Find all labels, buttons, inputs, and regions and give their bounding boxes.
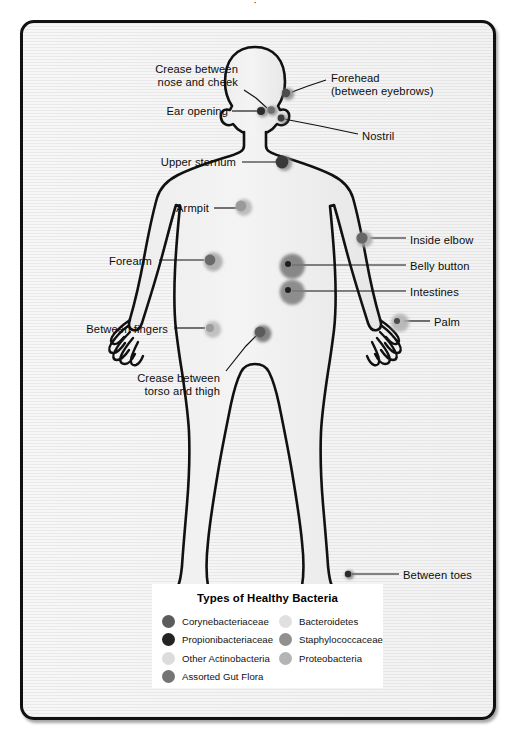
- legend-item[interactable]: Bacteroidetes: [279, 612, 383, 631]
- label-between-toes: Between toes: [403, 569, 510, 582]
- legend-item-label: Proteobacteria: [299, 653, 362, 664]
- marker-crease-torso-thigh[interactable]: [254, 325, 271, 342]
- marker-core: [282, 89, 290, 97]
- legend-item[interactable]: Propionibacteriaceae: [162, 631, 279, 650]
- label-ear-opening: Ear opening: [130, 105, 228, 118]
- marker-between-fingers[interactable]: [204, 321, 221, 338]
- legend-item-label: Bacteroidetes: [299, 616, 358, 627]
- marker-core: [267, 106, 275, 114]
- marker-halo: [280, 254, 305, 279]
- cropped-caption-fragment: ·: [0, 0, 510, 4]
- legend-swatch-icon: [279, 633, 292, 646]
- label-crease-torso-thigh: Crease between torso and thigh: [108, 372, 220, 397]
- label-armpit: Armpit: [151, 202, 209, 215]
- legend-swatch-icon: [162, 670, 175, 683]
- diagram-canvas: ·: [0, 0, 510, 732]
- marker-core: [394, 318, 400, 324]
- legend-panel: Types of Healthy Bacteria Corynebacteria…: [152, 584, 383, 688]
- marker-armpit[interactable]: [235, 199, 252, 216]
- marker-forearm[interactable]: [204, 252, 223, 271]
- legend-title: Types of Healthy Bacteria: [152, 592, 383, 604]
- marker-core: [206, 324, 214, 332]
- label-belly-button: Belly button: [410, 260, 510, 273]
- marker-belly-button[interactable]: [280, 254, 305, 279]
- legend-swatch-icon: [162, 652, 175, 665]
- label-forearm: Forearm: [82, 255, 152, 268]
- legend-item-label: Assorted Gut Flora: [182, 671, 263, 682]
- legend-item-label: Other Actinobacteria: [182, 653, 270, 664]
- label-palm: Palm: [434, 316, 494, 329]
- marker-core: [285, 261, 291, 267]
- legend-column-2: BacteroidetesStaphylococcaceaeProteobact…: [279, 612, 383, 686]
- marker-core: [276, 156, 289, 169]
- legend-swatch-icon: [162, 615, 175, 628]
- marker-core: [236, 201, 247, 212]
- legend-item[interactable]: Proteobacteria: [279, 649, 383, 668]
- legend-column-1: CorynebacteriaceaePropionibacteriaceaeOt…: [162, 612, 279, 686]
- legend-item-label: Corynebacteriaceae: [182, 616, 269, 627]
- marker-palm[interactable]: [391, 313, 409, 331]
- label-upper-sternum: Upper sternum: [124, 156, 236, 169]
- label-between-fingers: Between fingers: [54, 323, 168, 336]
- legend-swatch-icon: [162, 633, 175, 646]
- legend-item-label: Staphylococcaceae: [299, 634, 383, 645]
- marker-halo: [391, 313, 409, 331]
- label-forehead: Forehead (between eyebrows): [331, 72, 481, 97]
- marker-core: [205, 255, 216, 266]
- marker-halo: [280, 280, 305, 305]
- label-crease-nose-cheek: Crease between nose and cheek: [96, 63, 238, 88]
- marker-core: [285, 287, 291, 293]
- marker-core: [345, 571, 351, 577]
- marker-between-toes[interactable]: [345, 570, 354, 579]
- label-intestines: Intestines: [410, 286, 510, 299]
- marker-core: [255, 327, 266, 338]
- legend-item-label: Propionibacteriaceae: [182, 634, 273, 645]
- marker-core: [257, 107, 265, 115]
- legend-item[interactable]: Corynebacteriaceae: [162, 612, 279, 631]
- legend-item[interactable]: Other Actinobacteria: [162, 649, 279, 668]
- marker-forehead[interactable]: [282, 88, 295, 100]
- leader-line-forehead: [292, 80, 326, 92]
- label-nostril: Nostril: [362, 130, 422, 143]
- marker-core: [356, 232, 367, 243]
- legend-item[interactable]: Staphylococcaceae: [279, 631, 383, 650]
- legend-item[interactable]: Assorted Gut Flora: [162, 668, 279, 687]
- leader-line-nostril: [284, 119, 358, 134]
- marker-intestines[interactable]: [280, 280, 305, 305]
- legend-swatch-icon: [279, 615, 292, 628]
- marker-core: [278, 115, 285, 122]
- legend-columns: CorynebacteriaceaePropionibacteriaceaeOt…: [152, 612, 383, 686]
- legend-swatch-icon: [279, 652, 292, 665]
- label-inside-elbow: Inside elbow: [410, 234, 510, 247]
